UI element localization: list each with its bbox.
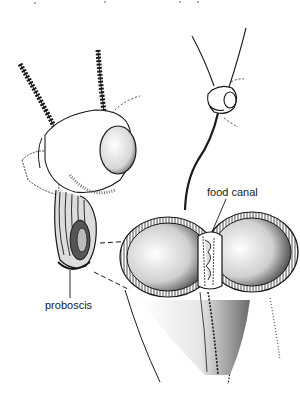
illustration: [0, 0, 300, 403]
compound-eye: [100, 126, 136, 174]
proboscis-cross-section: [120, 212, 298, 384]
coiled-proboscis: [55, 190, 97, 269]
small-antenna-left: [192, 36, 214, 86]
food-canal-label: food canal: [207, 187, 258, 198]
proboscis-label: proboscis: [45, 300, 92, 311]
diagram-canvas: food canal proboscis: [0, 0, 300, 403]
cropped-top-marks: [34, 1, 199, 4]
small-head-sketch: [185, 28, 246, 210]
small-antenna-right: [229, 28, 246, 87]
